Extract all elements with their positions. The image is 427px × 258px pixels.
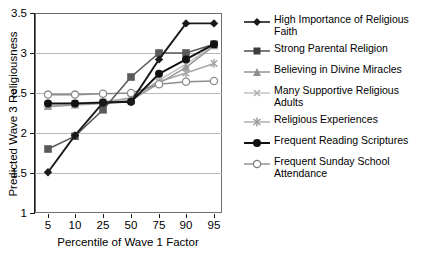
data-point — [155, 81, 162, 88]
x-axis-title: Percentile of Wave 1 Factor — [18, 236, 238, 248]
y-tick-label-3: 3 — [0, 47, 27, 59]
data-point — [155, 70, 163, 78]
y-tick-label-1.5: 1.5 — [0, 167, 27, 179]
legend-label: Frequent Sunday School Attendance — [271, 156, 425, 179]
legend-marker-square-icon — [243, 44, 271, 58]
legend-item-frequent-reading-scriptures: Frequent Reading Scriptures — [243, 135, 425, 150]
y-tick-label-3.5: 3.5 — [0, 7, 27, 19]
legend-label: Strong Parental Religion — [271, 43, 388, 55]
legend-marker-filled-circle-icon — [243, 136, 271, 150]
legend-marker-open-circle-icon — [243, 157, 271, 171]
legend-item-strong-parental-religion: Strong Parental Religion — [243, 43, 425, 58]
x-tick-label-5: 5 — [33, 219, 63, 231]
data-point — [127, 89, 134, 96]
legend-item-frequent-sunday-school-attendance: Frequent Sunday School Attendance — [243, 156, 425, 179]
data-point — [127, 73, 135, 81]
x-tick-label-25: 25 — [88, 219, 118, 231]
x-tick-mark-75 — [159, 214, 160, 218]
series-plot — [35, 13, 222, 213]
data-point — [71, 99, 79, 107]
y-tick-label-1: 1 — [0, 207, 27, 219]
legend-marker-triangle-icon — [243, 65, 271, 79]
chart-legend: High Importance of Religious Faith Stron… — [243, 14, 425, 185]
x-tick-mark-95 — [214, 214, 215, 218]
legend-label: Believing in Divine Miracles — [271, 64, 402, 76]
y-tick-label-2: 2 — [0, 127, 27, 139]
x-tick-label-50: 50 — [116, 219, 146, 231]
legend-item-believing-in-divine-miracles: Believing in Divine Miracles — [243, 64, 425, 79]
legend-marker-asterisk-icon — [243, 115, 271, 129]
data-point — [210, 77, 217, 84]
plot-area — [35, 13, 222, 213]
data-point — [71, 91, 78, 98]
legend-item-religious-experiences: Religious Experiences — [243, 114, 425, 129]
legend-marker-x-icon — [243, 86, 271, 100]
data-point — [210, 19, 218, 27]
x-tick-mark-5 — [48, 214, 49, 218]
legend-label: High Importance of Religious Faith — [271, 14, 425, 37]
x-tick-mark-10 — [75, 214, 76, 218]
x-tick-label-75: 75 — [144, 219, 174, 231]
data-point — [44, 99, 52, 107]
legend-item-high-importance-of-religious-faith: High Importance of Religious Faith — [243, 14, 425, 37]
chart-figure: Predicted Wave 3 Religiousness 3.5 3 2.5… — [0, 0, 427, 258]
data-point — [182, 55, 190, 63]
y-axis-title: Predicted Wave 3 Religiousness — [7, 11, 19, 217]
legend-label: Religious Experiences — [271, 114, 378, 126]
x-tick-label-95: 95 — [199, 219, 229, 231]
data-point — [99, 90, 106, 97]
x-tick-label-10: 10 — [60, 219, 90, 231]
legend-label: Many Supportive Religious Adults — [271, 85, 425, 108]
legend-label: Frequent Reading Scriptures — [271, 135, 408, 147]
data-point — [44, 91, 51, 98]
x-tick-mark-50 — [131, 214, 132, 218]
data-point — [182, 78, 189, 85]
x-tick-mark-25 — [103, 214, 104, 218]
x-tick-label-90: 90 — [171, 219, 201, 231]
legend-marker-diamond-icon — [243, 15, 271, 29]
x-tick-mark-90 — [186, 214, 187, 218]
legend-item-many-supportive-religious-adults: Many Supportive Religious Adults — [243, 85, 425, 108]
data-point — [210, 40, 218, 48]
data-point — [44, 145, 52, 153]
y-tick-label-2.5: 2.5 — [0, 87, 27, 99]
